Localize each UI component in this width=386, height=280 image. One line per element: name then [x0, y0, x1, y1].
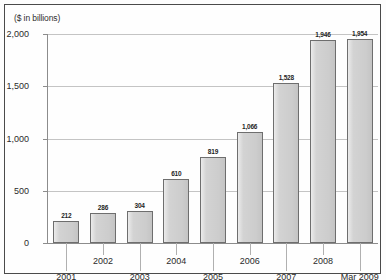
bar-slot: 610: [158, 34, 195, 243]
y-axis-tick-label: 0: [0, 238, 29, 248]
bar-value-label: 610: [171, 170, 181, 177]
bar-chart-figure: ($ in billions) 05001,0001,5002,000 2122…: [0, 0, 386, 280]
x-axis-tick-line: [176, 243, 177, 255]
plot-area: 05001,0001,5002,000 2122863046108191,066…: [47, 34, 377, 243]
y-axis-tick-label: 1,500: [0, 81, 29, 91]
bar-value-label: 304: [135, 202, 145, 209]
bar[interactable]: [273, 83, 299, 243]
x-axis-tick-label: 2003: [130, 272, 150, 280]
x-axis-tick-label: 2006: [240, 256, 260, 266]
x-axis-tick-line: [286, 243, 287, 271]
x-axis-tick-label: 2002: [93, 256, 113, 266]
x-axis-tick-label: 2005: [203, 272, 223, 280]
bars-group: 2122863046108191,0661,5281,9461,954: [48, 34, 378, 243]
y-axis-tick-label: 500: [0, 186, 29, 196]
x-axis-tick-label: Mar 2009: [341, 272, 379, 280]
bar-slot: 819: [195, 34, 232, 243]
chart-frame: ($ in billions) 05001,0001,5002,000 2122…: [4, 4, 381, 274]
x-axis-tick-line: [103, 243, 104, 255]
bar-value-label: 286: [98, 204, 108, 211]
bar-value-label: 1,946: [315, 31, 330, 38]
y-axis-tick-label: 1,000: [0, 134, 29, 144]
bar-slot: 286: [85, 34, 122, 243]
bar-slot: 1,954: [341, 34, 378, 243]
x-axis-tick-line: [213, 243, 214, 271]
y-axis-units-note: ($ in billions): [14, 13, 60, 23]
bar-slot: 212: [48, 34, 85, 243]
bar[interactable]: [53, 221, 79, 243]
y-axis-tick-label: 2,000: [0, 29, 29, 39]
x-axis-tick-line: [323, 243, 324, 255]
x-axis-tick-label: 2001: [56, 272, 76, 280]
x-axis-tick-line: [250, 243, 251, 255]
bar-slot: 304: [121, 34, 158, 243]
bar-slot: 1,528: [268, 34, 305, 243]
x-axis-tick-label: 2008: [313, 256, 333, 266]
bar-slot: 1,066: [231, 34, 268, 243]
x-axis-tick-label: 2007: [276, 272, 296, 280]
x-axis-tick-line: [360, 243, 361, 271]
x-axis-tick-line: [66, 243, 67, 271]
bar-slot: 1,946: [305, 34, 342, 243]
bar-value-label: 1,954: [352, 30, 367, 37]
bar[interactable]: [347, 39, 373, 243]
bar[interactable]: [237, 132, 263, 243]
bar[interactable]: [127, 211, 153, 243]
bar[interactable]: [163, 179, 189, 243]
y-axis-tick-mark: [43, 243, 48, 244]
bar-value-label: 1,066: [242, 123, 257, 130]
bar[interactable]: [310, 40, 336, 243]
bar-value-label: 819: [208, 148, 218, 155]
bar[interactable]: [90, 213, 116, 243]
bar-value-label: 212: [61, 212, 71, 219]
bar-value-label: 1,528: [279, 74, 294, 81]
x-axis-tick-label: 2004: [166, 256, 186, 266]
x-axis-tick-line: [140, 243, 141, 271]
bar[interactable]: [200, 157, 226, 243]
